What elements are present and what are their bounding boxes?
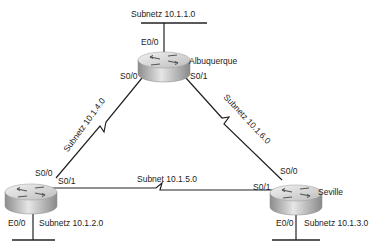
iface-left-s00: S0/0 xyxy=(35,169,53,178)
router-name-seville: Seville xyxy=(318,188,343,197)
iface-seville-e00: E0/0 xyxy=(276,219,294,228)
iface-albuquerque-s00: S0/0 xyxy=(120,72,138,81)
iface-left-s01: S0/1 xyxy=(58,177,76,186)
serial-link-10-1-4-0 xyxy=(56,78,142,178)
serial-link-10-1-5-0 xyxy=(52,183,276,190)
iface-left-e00: E0/0 xyxy=(8,219,26,228)
router-name-albuquerque: Albuquerque xyxy=(189,57,237,66)
subnet-label-right-lan: Subnetz 10.1.3.0 xyxy=(304,219,368,228)
router-seville-icon xyxy=(270,185,322,215)
network-diagram: Subnetz 10.1.1.0 E0/0 Albuquerque S0/0 S… xyxy=(0,0,379,246)
iface-seville-s01: S0/1 xyxy=(253,183,271,192)
iface-seville-s00: S0/0 xyxy=(280,167,298,176)
subnet-label-bottom-serial: Subnet 10.1.5.0 xyxy=(137,175,197,184)
topology-lines xyxy=(0,0,379,246)
subnet-label-top-lan: Subnetz 10.1.1.0 xyxy=(131,10,195,19)
iface-albuquerque-s01: S0/1 xyxy=(190,72,208,81)
router-albuquerque-icon xyxy=(138,52,190,82)
subnet-label-left-lan: Subnetz 10.1.2.0 xyxy=(39,219,103,228)
iface-albuquerque-e00: E0/0 xyxy=(141,38,159,47)
serial-link-10-1-6-0 xyxy=(186,78,282,180)
router-left-icon xyxy=(5,184,57,214)
